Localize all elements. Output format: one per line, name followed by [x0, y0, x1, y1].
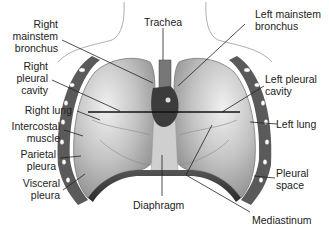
body-outline [58, 2, 124, 62]
label-trachea: Trachea [144, 16, 182, 28]
label-right-mainstem-bronchus: Right mainstem bronchus [6, 18, 58, 54]
label-left-mainstem-bronchus: Left mainstem bronchus [255, 8, 321, 32]
label-pleural-space: Pleural space [276, 167, 309, 191]
label-parietal-pleura: Parietal pleura [2, 148, 56, 172]
label-left-lung: Left lung [276, 118, 316, 130]
label-intercostal-muscle: Intercostal muscle [2, 120, 60, 144]
label-visceral-pleura: Visceral pleura [2, 177, 60, 201]
label-mediastinum: Mediastinum [252, 214, 312, 226]
trachea-shape [159, 60, 171, 90]
label-right-pleural-cavity: Right pleural cavity [2, 60, 48, 96]
label-left-pleural-cavity: Left pleural cavity [265, 73, 317, 97]
label-diaphragm: Diaphragm [133, 199, 184, 211]
label-right-lung: Right lung [8, 104, 72, 116]
